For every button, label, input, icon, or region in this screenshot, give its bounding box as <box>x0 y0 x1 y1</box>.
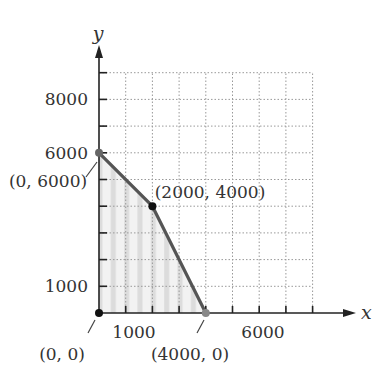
y-tick-label: 1000 <box>45 276 88 296</box>
annotation-leader-line <box>86 162 97 177</box>
x-tick-label: 1000 <box>112 322 155 342</box>
y-tick-label: 6000 <box>45 143 88 163</box>
vertex-point <box>95 309 103 317</box>
y-tick-label: 8000 <box>45 89 88 109</box>
x-axis-arrow-icon <box>343 309 356 317</box>
x-tick-label: 6000 <box>241 322 284 342</box>
point-annotation: (4000, 0) <box>151 344 229 364</box>
x-axis-label: x <box>361 301 372 323</box>
point-annotation: (2000, 4000) <box>155 182 266 202</box>
annotation-leader-line <box>197 320 204 333</box>
vertex-point <box>202 309 210 317</box>
annotation-leader-line <box>88 320 95 333</box>
vertex-point <box>148 202 156 210</box>
y-axis-label: y <box>92 22 104 44</box>
point-annotation: (0, 6000) <box>9 171 87 191</box>
y-axis-arrow-icon <box>95 45 103 58</box>
vertex-point <box>95 149 103 157</box>
feasible-region-chart: 10006000800010006000xy(0, 6000)(2000, 40… <box>0 0 382 372</box>
point-annotation: (0, 0) <box>39 344 85 364</box>
